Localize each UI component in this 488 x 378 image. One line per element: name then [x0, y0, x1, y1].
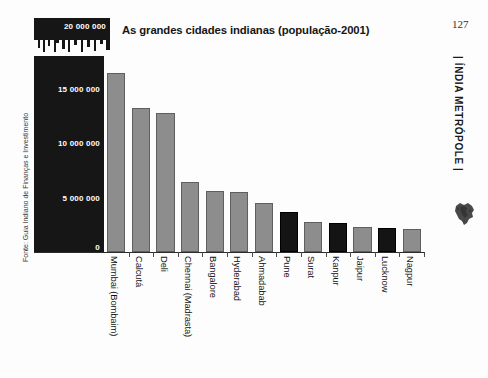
x-axis-category-label: Calcutá: [134, 256, 145, 287]
city-skyline-icon: [34, 40, 110, 52]
running-head: | ÍNDIA METRÓPOLE |: [449, 56, 467, 206]
running-head-label: | ÍNDIA METRÓPOLE |: [453, 56, 464, 172]
x-axis-category-label: Bangalore: [208, 256, 219, 298]
y-axis-tick-label: 0: [95, 243, 100, 252]
bar: [107, 73, 125, 252]
x-axis-category-label: Chennai (Madrasta): [183, 256, 194, 337]
page-canvas: 20 000 000 As grandes cidades indianas (…: [0, 0, 488, 378]
x-axis-category-label: Hyderabad: [232, 256, 243, 301]
x-axis-category-label: Mumbai (Bombaim): [109, 256, 120, 336]
y-axis-panel: 05 000 00010 000 00015 000 000: [34, 56, 104, 252]
scale-legend-label: 20 000 000: [64, 22, 106, 31]
bar: [280, 212, 298, 252]
bar: [156, 113, 174, 252]
bar: [206, 191, 224, 252]
x-axis-category-label: Deli: [159, 256, 170, 272]
bar: [304, 222, 322, 252]
bar: [403, 229, 421, 252]
bar: [230, 192, 248, 252]
x-axis-category-label: Pune: [282, 256, 293, 278]
x-axis-category-label: Jaipur: [355, 256, 366, 281]
y-axis-tick-label: 15 000 000: [58, 84, 100, 93]
x-axis-category-label: Kanpur: [331, 256, 342, 286]
bar: [353, 227, 371, 252]
bar: [255, 203, 273, 252]
source-note-label: Fonte: Guia Indiano de Finanças e Invest…: [22, 113, 29, 262]
scale-legend-box: 20 000 000: [34, 18, 110, 40]
bar-series: [104, 56, 424, 252]
x-axis-category-label: Ahmadabab: [257, 256, 268, 306]
x-axis-category-labels: Mumbai (Bombaim)CalcutáDeliChennai (Madr…: [104, 256, 434, 368]
page-title: As grandes cidades indianas (população-2…: [122, 24, 369, 36]
bar: [132, 108, 150, 252]
source-note: Fonte: Guia Indiano de Finanças e Invest…: [20, 110, 34, 260]
bar: [181, 182, 199, 252]
page-number: 127: [452, 18, 469, 30]
y-axis-tick-label: 10 000 000: [58, 139, 100, 148]
x-axis-category-label: Nagpur: [405, 256, 416, 286]
x-axis-baseline: [34, 252, 424, 253]
y-axis-tick-label: 5 000 000: [63, 193, 100, 202]
bar: [329, 223, 347, 252]
india-map-icon: [451, 200, 479, 228]
bar: [378, 228, 396, 253]
x-axis-category-label: Lucknow: [380, 256, 391, 292]
x-axis-category-label: Surat: [306, 256, 317, 278]
bar-chart: 05 000 00010 000 00015 000 000: [34, 56, 424, 253]
